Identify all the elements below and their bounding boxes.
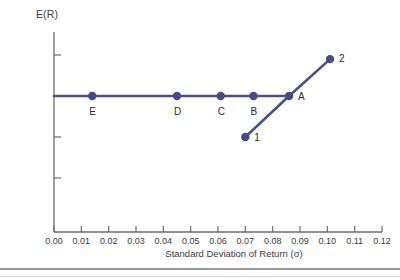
x-tick-label-0.09: 0.09: [291, 236, 309, 246]
x-tick-label-0.04: 0.04: [155, 236, 173, 246]
x-tick-label-0.03: 0.03: [127, 236, 145, 246]
series-layer: [54, 55, 334, 141]
x-tick-label-0.05: 0.05: [182, 236, 200, 246]
x-tick-label-0.01: 0.01: [73, 236, 91, 246]
data-point-A: [285, 92, 293, 100]
footer-divider: [0, 268, 400, 270]
data-point-B: [249, 92, 257, 100]
x-axis-title: Standard Deviation of Return (σ): [0, 248, 400, 259]
x-tick-label-0.06: 0.06: [209, 236, 227, 246]
x-tick-label-0.12: 0.12: [373, 236, 391, 246]
x-tick-label-0.08: 0.08: [264, 236, 282, 246]
data-point-1: [241, 133, 249, 141]
y-tick-labels: 0.050.100.150.20: [0, 0, 46, 280]
point-label-E: E: [89, 106, 96, 117]
x-tick-label-0.00: 0.00: [45, 236, 63, 246]
chart-figure: E(R) 0.050.100.150.20 0.000.010.020.030.…: [0, 0, 400, 280]
footer-divider-secondary: [0, 276, 400, 277]
x-tick-label-0.11: 0.11: [346, 236, 363, 246]
point-label-A: A: [298, 91, 305, 102]
point-label-D: D: [174, 106, 181, 117]
data-point-E: [88, 92, 96, 100]
point-label-1: 1: [254, 132, 260, 143]
x-tick-label-0.02: 0.02: [100, 236, 118, 246]
point-label-2: 2: [339, 53, 345, 64]
data-point-2: [326, 55, 334, 63]
x-tick-label-0.10: 0.10: [319, 236, 337, 246]
point-label-B: B: [251, 106, 258, 117]
data-point-D: [173, 92, 181, 100]
data-point-C: [217, 92, 225, 100]
point-label-C: C: [218, 106, 225, 117]
x-tick-label-0.07: 0.07: [237, 236, 255, 246]
